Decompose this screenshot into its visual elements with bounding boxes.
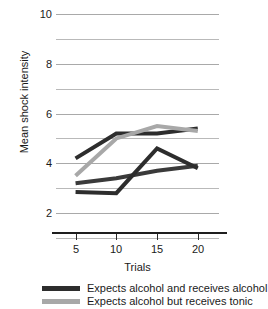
legend-swatch-icon bbox=[42, 299, 80, 304]
x-axis-line bbox=[52, 232, 227, 234]
x-tick-label: 5 bbox=[59, 243, 93, 255]
data-lines bbox=[56, 14, 219, 238]
y-tick-label: 8 bbox=[22, 59, 52, 70]
x-tick-label: 20 bbox=[181, 243, 215, 255]
x-tick-label: 10 bbox=[99, 243, 133, 255]
gridline-minor bbox=[56, 238, 219, 239]
x-tick-label: 15 bbox=[140, 243, 174, 255]
y-axis-tick-labels: 246810 bbox=[14, 14, 52, 238]
y-tick-label: 4 bbox=[22, 158, 52, 169]
series-line-3 bbox=[76, 148, 198, 193]
chart-legend: Expects alcohol and receives alcoholExpe… bbox=[42, 283, 250, 309]
legend-item: Expects alcohol and receives alcohol bbox=[42, 283, 250, 294]
x-axis-title: Trials bbox=[56, 261, 219, 273]
x-tick-mark bbox=[116, 234, 117, 240]
legend-item-label: Expects alcohol but receives tonic bbox=[87, 296, 253, 307]
legend-item-label: Expects alcohol and receives alcohol bbox=[87, 283, 267, 294]
x-tick-mark bbox=[157, 234, 158, 240]
x-tick-mark bbox=[76, 234, 77, 240]
legend-swatch-icon bbox=[42, 286, 80, 291]
x-tick-mark bbox=[198, 234, 199, 240]
legend-item: Expects alcohol but receives tonic bbox=[42, 296, 250, 307]
y-tick-label: 10 bbox=[22, 9, 52, 20]
y-tick-label: 2 bbox=[22, 208, 52, 219]
y-tick-label: 6 bbox=[22, 109, 52, 120]
plot-area bbox=[56, 14, 219, 238]
